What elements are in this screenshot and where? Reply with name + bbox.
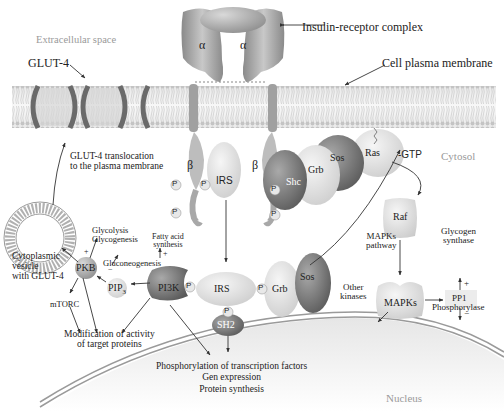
alpha-right-label: α [240, 39, 246, 52]
sos-bottom-label: Sos [300, 272, 314, 283]
phospho-pi3k: P [186, 282, 191, 290]
vesicle-label: Cytoplasmic vesicle with GLUT-4 [12, 252, 64, 282]
phospho-beta-right-1: P [271, 185, 276, 193]
mapks-pathway-line-2: pathway [366, 241, 397, 250]
irs-top-shape [207, 142, 241, 198]
irs-top-label: IRS [216, 176, 233, 187]
plasma-membrane-callout: Cell plasma membrane [382, 57, 493, 70]
pip3-label: PIP3 [108, 283, 126, 296]
gtp-label: -GTP [398, 150, 422, 161]
nuclear-line-1: Phosphorylation of transcription factors [156, 361, 307, 372]
glut4-callout: GLUT-4 [28, 57, 69, 70]
mtorc-label: mTORC [50, 300, 79, 309]
phospho-grb: P [258, 284, 263, 292]
phosphorylase-label: Phosphorylase [432, 303, 485, 312]
phospho-beta-left-2: P [201, 180, 206, 188]
vesicle-line-3: with GLUT-4 [12, 272, 64, 282]
nuclear-line-2: Gen expression [156, 372, 307, 383]
insulin-receptor-callout: Insulin-receptor complex [302, 21, 423, 34]
pi3k-label: PI3K [158, 283, 179, 294]
sos-top-label: Sos [330, 153, 344, 164]
plus-sign-glycolysis: + [84, 248, 89, 256]
phospho-beta-left-1: P [172, 180, 177, 188]
alpha-left-label: α [199, 39, 205, 52]
fatty-acid-synthesis-label: Fatty acid synthesis [152, 233, 184, 250]
nuclear-line-3: Protein synthesis [156, 384, 307, 395]
mapks-label: MAPKs [384, 298, 417, 309]
raf-label: Raf [393, 212, 407, 223]
translocation-label: GLUT-4 translocation to the plasma membr… [70, 152, 163, 172]
phospho-beta-left-3: P [172, 208, 177, 216]
irs-center-label: IRS [214, 284, 230, 295]
glycogen-synthase-label: Glycogen synthase [441, 227, 476, 246]
phospho-sh2: P [224, 307, 229, 315]
extracellular-space-label: Extracellular space [36, 34, 116, 45]
ras-label: Ras [365, 148, 380, 159]
other-kinases-line-2: kinases [340, 292, 367, 301]
sos-bottom-shape [295, 253, 331, 313]
plus-sign-fatty-acid: + [163, 250, 168, 258]
pkb-label: PKB [76, 263, 95, 274]
cytosol-label: Cytosol [441, 151, 475, 163]
grb-bottom-label: Grb [272, 284, 288, 295]
glycogenesis-text: Glycogenesis [92, 235, 138, 244]
minus-sign-phosphorylase: − [464, 309, 469, 318]
nuclear-effects-label: Phosphorylation of transcription factors… [156, 361, 307, 395]
modification-line-2: of target proteins [64, 340, 155, 350]
beta-left-label: β [187, 159, 193, 172]
pip3-text: PIP [108, 282, 122, 293]
minus-sign-gluconeogenesis: − [108, 266, 113, 274]
other-kinases-label: Other kinases [340, 283, 367, 302]
pip3-subscript: 3 [122, 288, 126, 296]
grb-top-label: Grb [308, 165, 324, 176]
modification-label: Modification of activity of target prote… [64, 330, 155, 350]
mapks-pathway-label: MAPKs pathway [366, 232, 397, 251]
ras-complex [263, 128, 404, 210]
translocation-line-2: to the plasma membrane [70, 162, 163, 172]
insulin-signaling-diagram: Extracellular space Cytosol Nucleus GLUT… [0, 0, 504, 411]
nucleus-label: Nucleus [386, 393, 422, 405]
phospho-beta-right-2: P [271, 210, 276, 218]
plus-sign-glycogen-synthase: + [464, 279, 469, 288]
sh2-label: SH2 [217, 320, 235, 331]
beta-right-label: β [252, 159, 258, 172]
shc-label: Shc [286, 177, 301, 188]
glycogen-synthase-line-2: synthase [441, 236, 476, 245]
glycolysis-glycogenesis-label: Glycolysis Glycogenesis [92, 226, 138, 244]
